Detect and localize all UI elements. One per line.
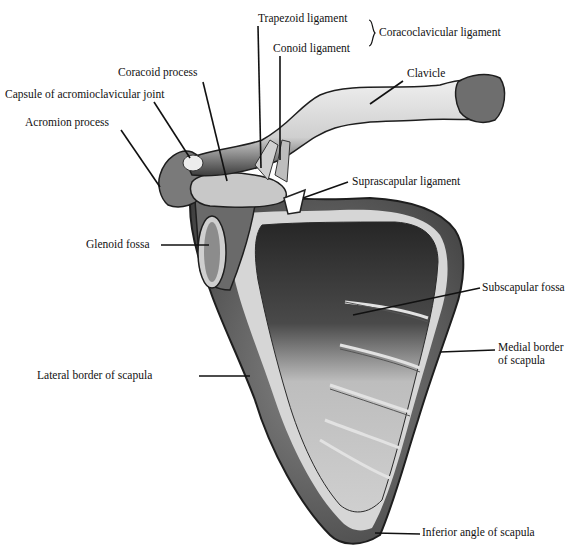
label-capsule-acromioclavicular-joint: Capsule of acromioclavicular joint bbox=[5, 88, 164, 101]
label-conoid-ligament: Conoid ligament bbox=[273, 42, 350, 55]
label-glenoid-fossa: Glenoid fossa bbox=[86, 238, 150, 251]
label-trapezoid-ligament: Trapezoid ligament bbox=[258, 12, 347, 25]
anatomy-figure: Trapezoid ligament Coracoclavicular liga… bbox=[0, 0, 580, 551]
label-medial-border-line2: of scapula bbox=[498, 354, 545, 367]
label-acromion-process: Acromion process bbox=[25, 116, 109, 129]
label-inferior-angle: Inferior angle of scapula bbox=[422, 526, 535, 539]
label-medial-border-line1: Medial border bbox=[498, 341, 563, 354]
label-subscapular-fossa: Subscapular fossa bbox=[482, 281, 565, 294]
coracoid-process bbox=[191, 173, 287, 207]
label-lateral-border: Lateral border of scapula bbox=[37, 369, 152, 382]
label-suprascapular-ligament: Suprascapular ligament bbox=[352, 175, 460, 188]
scapula-illustration bbox=[0, 0, 580, 551]
label-coracoid-process: Coracoid process bbox=[118, 66, 198, 79]
label-clavicle: Clavicle bbox=[407, 67, 445, 80]
label-coracoclavicular-ligament: Coracoclavicular ligament bbox=[379, 26, 501, 39]
brace-coracoclavicular bbox=[369, 20, 375, 46]
clavicle bbox=[183, 75, 505, 176]
